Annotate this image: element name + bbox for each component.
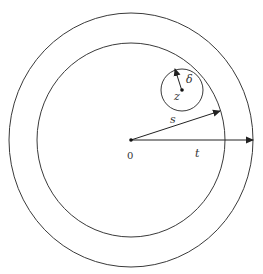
origin-point — [129, 138, 133, 142]
diagram-canvas: 0 s t z δ — [0, 0, 263, 274]
z-point — [180, 88, 184, 92]
origin-label: 0 — [127, 150, 133, 161]
t-label: t — [195, 147, 200, 160]
annulus-diagram: 0 s t z δ — [0, 0, 263, 274]
delta-label: δ — [186, 73, 193, 86]
radius-delta-arrow — [175, 69, 182, 91]
z-label: z — [173, 90, 180, 103]
s-label: s — [170, 113, 176, 126]
